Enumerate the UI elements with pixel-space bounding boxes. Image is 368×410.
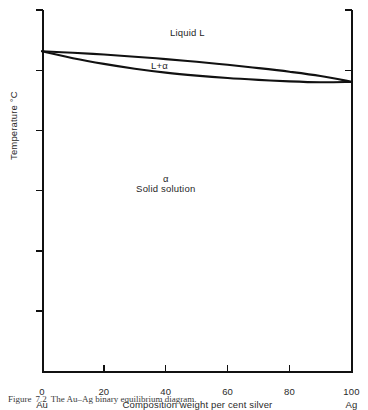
- caption-number: 7.2: [36, 394, 47, 404]
- liquidus-curve: [42, 51, 351, 81]
- two-phase-region-label: L+α: [151, 60, 168, 72]
- plot-area: 020040060080010001200 020406080100 Au Ag…: [42, 10, 353, 373]
- caption-label: Figure: [8, 394, 32, 404]
- phase-boundary-curves: [42, 10, 353, 373]
- caption-text: The Au–Ag binary equilibrium diagram.: [51, 394, 197, 404]
- solidus-curve: [42, 51, 351, 82]
- figure-caption: Figure7.2The Au–Ag binary equilibrium di…: [8, 394, 368, 404]
- solid-solution-name-label: Solid solution: [136, 183, 195, 195]
- liquid-region-label: Liquid L: [170, 27, 205, 39]
- y-axis-title: Temperature °C: [8, 91, 19, 160]
